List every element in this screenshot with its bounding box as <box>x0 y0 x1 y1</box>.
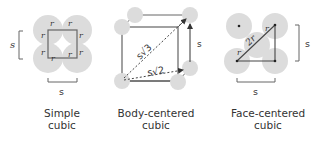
side-bracket <box>295 25 299 61</box>
face-diagonal-label: s√2 <box>146 64 165 78</box>
caption-line: cubic <box>106 119 206 131</box>
body-diagonal-label: s√3 <box>134 42 154 62</box>
caption-line: cubic <box>12 119 112 131</box>
bottom-bracket <box>237 78 275 82</box>
face-centered-cubic-panel: r r 2r s s <box>224 13 310 97</box>
body-centered-cubic-panel: s s√3 s√2 <box>114 7 202 90</box>
sphere <box>114 19 130 35</box>
sphere <box>127 7 143 23</box>
sphere <box>114 73 130 89</box>
caption-line: cubic <box>218 119 318 131</box>
caption-line: Face-centered <box>218 107 318 119</box>
edge-length-label: s <box>197 39 202 49</box>
bottom-length-label: s <box>253 86 258 97</box>
side-length-label: s <box>10 39 15 50</box>
side-bracket <box>19 31 23 59</box>
side-length-label: s <box>305 38 310 49</box>
body-centered-cubic-caption: Body-centered cubic <box>106 107 206 131</box>
face-centered-cubic-caption: Face-centered cubic <box>218 107 318 131</box>
bottom-bracket <box>48 78 77 82</box>
bottom-length-label: s <box>59 86 64 97</box>
sphere <box>182 7 198 23</box>
caption-line: Simple <box>12 107 112 119</box>
caption-line: Body-centered <box>106 107 206 119</box>
sphere <box>182 60 198 76</box>
simple-cubic-caption: Simple cubic <box>12 107 112 131</box>
simple-cubic-panel: r r r r r r r r s s <box>10 15 92 97</box>
sphere <box>170 74 186 90</box>
